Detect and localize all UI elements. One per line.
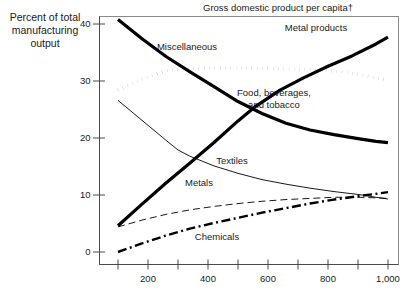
y-tick-label: 40 [80,18,91,29]
series-label: and tobacco [248,99,300,110]
chart-title: Gross domestic product per capita† [203,2,353,13]
gdp-per-capita-line-chart: Gross domestic product per capita† Perce… [0,0,404,294]
series-label: Food, beverages, [237,87,311,98]
series-label: Miscellaneous [157,41,217,52]
chart-container: Gross domestic product per capita† Perce… [0,0,404,294]
x-tick-label: 400 [200,273,216,284]
y-axis-label-line: manufacturing [12,24,79,36]
y-tick-label: 20 [80,132,91,143]
series-label: Chemicals [195,231,240,242]
series-label: Textiles [216,155,248,166]
x-tick-label: 600 [260,273,276,284]
y-tick-label: 10 [80,189,91,200]
series-label: Metals [185,177,213,188]
y-tick-label: 30 [80,75,91,86]
series-label: Metal products [285,22,348,33]
y-axis-label-line: Percent of total [10,11,81,23]
x-tick-label: 200 [140,273,156,284]
y-axis-label-line: output [30,37,59,49]
x-tick-label: 1,000 [376,273,400,284]
x-tick-label: 800 [320,273,336,284]
y-tick-label: 0 [85,246,90,257]
